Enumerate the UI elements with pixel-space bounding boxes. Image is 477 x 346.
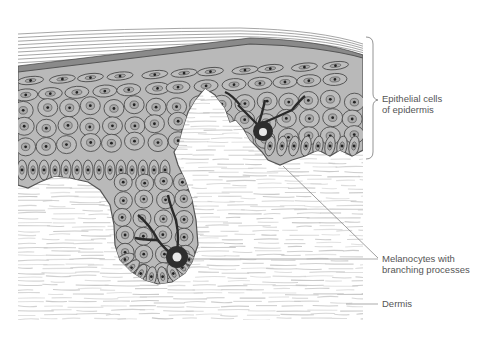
label-epithelial-line2: of epidermis [382, 104, 442, 115]
skin-cross-section-diagram [0, 0, 477, 346]
melanocyte-leader-diagonal [283, 166, 378, 258]
epidermis-bracket [366, 37, 378, 159]
label-epithelial-line1: Epithelial cells [382, 93, 442, 104]
label-melanocytes-line1: Melanocytes with [382, 253, 470, 264]
label-melanocytes: Melanocytes with branching processes [382, 253, 470, 275]
label-dermis-text: Dermis [382, 298, 412, 309]
label-epithelial-cells: Epithelial cells of epidermis [382, 93, 442, 115]
label-dermis: Dermis [382, 298, 412, 309]
label-melanocytes-line2: branching processes [382, 264, 470, 275]
